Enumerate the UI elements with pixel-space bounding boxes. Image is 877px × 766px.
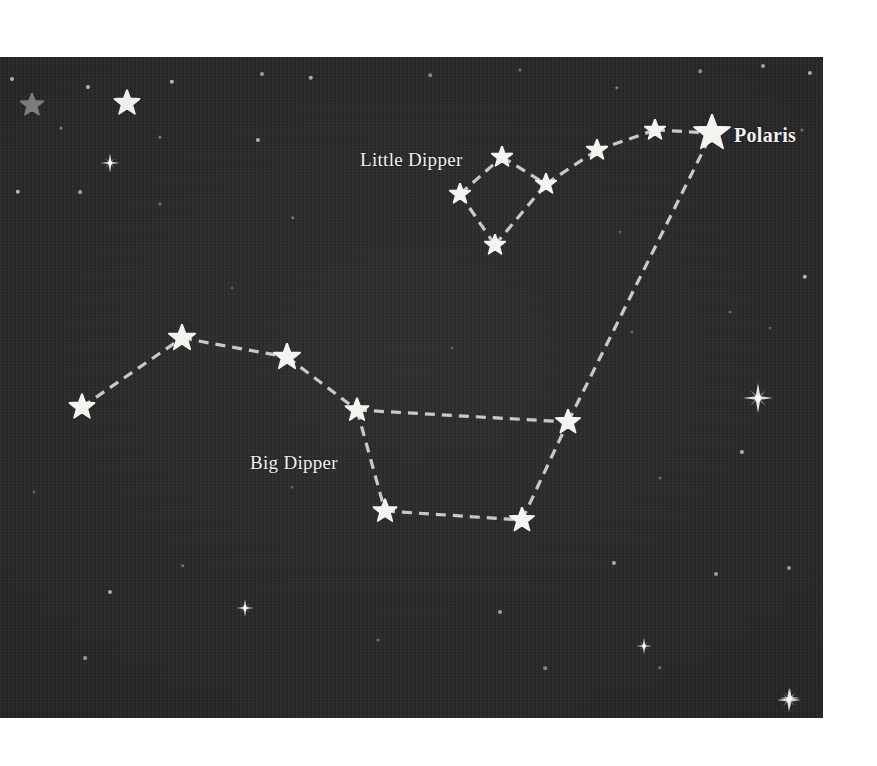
star-chart-page: Little DipperBig DipperPolaris: [0, 0, 877, 766]
night-sky-panel: Little DipperBig DipperPolaris: [0, 57, 823, 718]
label-big-dipper: Big Dipper: [250, 452, 338, 474]
label-little-dipper: Little Dipper: [360, 149, 463, 171]
label-polaris: Polaris: [734, 124, 796, 147]
labels-layer: Little DipperBig DipperPolaris: [0, 57, 823, 718]
